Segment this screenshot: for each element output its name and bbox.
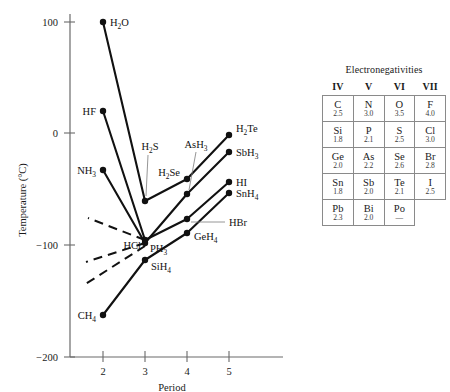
table-cell: Cl3.0 [415,122,446,148]
element-value: — [385,214,415,222]
point-label-h2s: H2S [141,141,158,155]
table-cell: Ge2.0 [323,148,354,174]
point-label-h2te: H2Te [236,123,258,137]
point-label-sih4: SiH4 [151,261,171,275]
element-value: 2.3 [323,214,353,222]
data-point [142,257,148,263]
data-point [100,312,106,318]
table-cell: I2.5 [415,174,446,200]
data-point [184,191,190,197]
table-cell: Sb2.0 [353,174,384,200]
element-value: 2.1 [354,136,384,144]
table-cell: Pb2.3 [323,200,354,226]
element-symbol: Po [385,203,415,214]
x-axis-title: Period [158,382,186,392]
data-point [184,176,190,182]
x-tick-label: 2 [100,366,105,377]
table-cell: Bi2.0 [353,200,384,226]
y-tick-label: 100 [42,17,58,28]
y-tick-label: 0 [53,128,58,139]
element-value: 3.0 [354,110,384,118]
point-label-hf: HF [83,106,97,117]
data-point [226,179,232,185]
element-value: 2.5 [323,110,353,118]
leader-lines [146,152,225,222]
data-point [100,19,106,25]
table-row: Pb2.3 Bi2.0 Po— [323,200,446,226]
column-header-vi: VI [384,81,415,96]
point-label-hcl: HCl [123,240,141,251]
table-cell: Br2.8 [415,148,446,174]
table-cell: N3.0 [353,96,384,122]
element-symbol: Te [385,177,415,188]
element-symbol: Se [385,151,415,162]
data-point [184,230,190,236]
point-label-hbr: HBr [229,217,248,228]
table-cell: As2.2 [353,148,384,174]
element-value: 2.5 [415,188,445,196]
table-cell-empty [415,200,446,226]
table-cell: Sn1.8 [323,174,354,200]
table-row: C2.5 N3.0 O3.5 F4.0 [323,96,446,122]
table-row: Sn1.8 Sb2.0 Te2.1 I2.5 [323,174,446,200]
element-value: 2.2 [354,162,384,170]
element-symbol: Br [415,151,445,162]
table-caption: Electronegativities [322,64,446,75]
table-cell: Si1.8 [323,122,354,148]
table-cell: F4.0 [415,96,446,122]
data-point [226,149,232,155]
y-axis-title: Temperature (°C) [17,163,29,237]
data-point [142,198,148,204]
electronegativity-table: IV V VI VII C2.5 N3.0 O3.5 F4.0 Si1.8 P2… [322,81,446,226]
point-label-snh4: SnH4 [236,188,259,202]
data-point [184,216,190,222]
point-label-geh4: GeH4 [194,231,218,245]
y-tick-label: −100 [36,240,58,251]
y-tick-label: −200 [36,352,58,363]
element-symbol: S [385,125,415,136]
table-cell: S2.5 [384,122,415,148]
element-symbol: O [385,99,415,110]
table-header-row: IV V VI VII [323,81,446,96]
element-value: 4.0 [415,110,445,118]
column-header-iv: IV [323,81,354,96]
element-value: 2.0 [323,162,353,170]
element-value: 2.8 [415,162,445,170]
element-symbol: C [323,99,353,110]
point-label-h2se: H2Se [158,167,180,181]
table-cell: Te2.1 [384,174,415,200]
element-symbol: Cl [415,125,445,136]
element-symbol: Bi [354,203,384,214]
table-cell: Se2.6 [384,148,415,174]
x-tick-label: 3 [142,366,147,377]
element-value: 2.6 [385,162,415,170]
point-label-h2o: H2O [110,17,129,31]
element-symbol: P [354,125,384,136]
electronegativity-table-block: Electronegativities IV V VI VII C2.5 N3.… [322,64,446,226]
column-header-v: V [353,81,384,96]
element-symbol: I [415,177,445,188]
table-row: Ge2.0 As2.2 Se2.6 Br2.8 [323,148,446,174]
chart-canvas: 100 0 −100 −200 2 3 4 5 Period Temperatu… [0,0,300,392]
table-cell: Po— [384,200,415,226]
element-symbol: N [354,99,384,110]
table-row: Si1.8 P2.1 S2.5 Cl3.0 [323,122,446,148]
element-value: 2.1 [385,188,415,196]
data-point [226,132,232,138]
element-value: 2.0 [354,188,384,196]
column-header-vii: VII [415,81,446,96]
hydride-boiling-point-chart: 100 0 −100 −200 2 3 4 5 Period Temperatu… [0,0,300,392]
x-tick-label: 5 [226,366,231,377]
element-symbol: Sn [323,177,353,188]
element-value: 2.5 [385,136,415,144]
data-point [100,108,106,114]
element-symbol: Pb [323,203,353,214]
x-tick-label: 4 [184,366,190,377]
element-value: 2.0 [354,214,384,222]
figure-root: 100 0 −100 −200 2 3 4 5 Period Temperatu… [0,0,450,392]
table-cell: P2.1 [353,122,384,148]
point-label-hi: HI [236,177,248,188]
table-cell: O3.5 [384,96,415,122]
point-label-sbh3: SbH3 [236,147,259,161]
element-value: 3.5 [385,110,415,118]
